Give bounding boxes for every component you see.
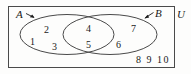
universal-set-label: U bbox=[177, 9, 185, 20]
outside-elements: 8 9 10 bbox=[136, 55, 170, 65]
element-4: 4 bbox=[86, 24, 91, 34]
element-7: 7 bbox=[131, 24, 136, 34]
set-a-pointer-arrow bbox=[26, 14, 35, 18]
set-b-label: B bbox=[155, 8, 162, 19]
element-6: 6 bbox=[116, 40, 121, 50]
element-3: 3 bbox=[52, 42, 57, 52]
set-b-pointer-arrow bbox=[144, 13, 153, 19]
set-a-label: A bbox=[16, 9, 23, 20]
venn-diagram-figure: A B U 1 2 3 4 5 6 7 8 9 10 bbox=[0, 0, 191, 74]
element-5: 5 bbox=[86, 40, 91, 50]
element-2: 2 bbox=[44, 25, 49, 35]
element-1: 1 bbox=[30, 37, 35, 47]
set-b-ellipse bbox=[63, 15, 157, 55]
set-a-ellipse bbox=[20, 15, 114, 55]
